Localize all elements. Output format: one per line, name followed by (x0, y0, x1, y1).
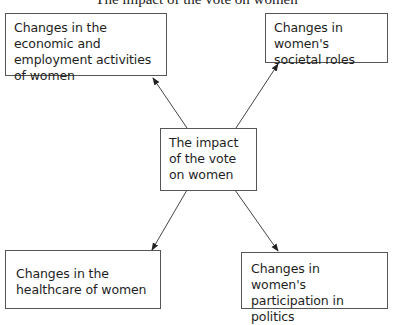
node-societal: Changes in women's societal roles (265, 13, 388, 63)
node-center-label: The impact of the vote on women (169, 135, 238, 182)
node-healthcare-label: Changes in the healthcare of women (16, 266, 146, 297)
node-economic: Changes in the economic and employment a… (5, 13, 167, 76)
arrow-to-societal (236, 64, 278, 128)
arrow-to-politics (235, 190, 278, 251)
node-politics: Changes in women's participation in poli… (241, 252, 388, 309)
arrow-to-economic (153, 78, 187, 128)
node-center: The impact of the vote on women (160, 128, 257, 191)
node-healthcare: Changes in the healthcare of women (5, 250, 161, 309)
node-societal-label: Changes in women's societal roles (274, 20, 355, 67)
node-economic-label: Changes in the economic and employment a… (14, 20, 151, 83)
arrow-to-healthcare (152, 190, 187, 250)
